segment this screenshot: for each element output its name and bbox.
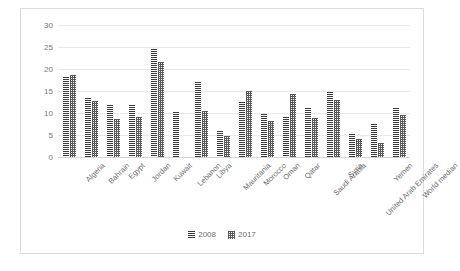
bar-2008 (349, 134, 355, 157)
bar-2017 (400, 115, 406, 157)
bar-group (58, 25, 80, 157)
plot-area: 051015202530 AlgeriaBahrainEgyptJordanKu… (58, 25, 410, 157)
y-tick-label-5: 5 (49, 131, 53, 140)
bar-group (190, 25, 212, 157)
bar-group (234, 25, 256, 157)
bar-2008 (283, 117, 289, 157)
category-label: Yemen (392, 161, 415, 184)
bar-group (124, 25, 146, 157)
bar-2017 (158, 62, 164, 157)
bar-2008 (63, 77, 69, 157)
bar-group (322, 25, 344, 157)
bar-2008 (371, 124, 377, 157)
bar-2017 (114, 119, 120, 157)
y-tick-label-30: 30 (44, 21, 53, 30)
bar-2008 (151, 49, 157, 157)
category-label: Jordan (150, 161, 173, 184)
legend-swatch-2017-icon (228, 231, 235, 239)
bar-2008 (195, 82, 201, 157)
bar-2008 (393, 108, 399, 157)
y-tick-label-20: 20 (44, 65, 53, 74)
gridline-0: 0 (58, 157, 410, 158)
bar-2008 (261, 114, 267, 157)
bar-2017 (378, 143, 384, 157)
bar-group (278, 25, 300, 157)
bar-group (168, 25, 190, 157)
bar-group (366, 25, 388, 157)
bar-2017 (202, 111, 208, 157)
bar-2008 (85, 98, 91, 157)
bar-2017 (136, 117, 142, 157)
bar-2008 (327, 92, 333, 157)
bar-2017 (70, 75, 76, 157)
y-tick-label-0: 0 (49, 153, 53, 162)
bar-2017 (334, 100, 340, 157)
bar-group (146, 25, 168, 157)
bar-group (344, 25, 366, 157)
legend-item-2017: 2017 (228, 230, 256, 239)
chart-legend: 2008 2017 (21, 230, 423, 239)
legend-label-2017: 2017 (238, 230, 256, 239)
bar-2008 (107, 105, 113, 157)
category-label: Kuwait (172, 161, 194, 183)
bar-2017 (312, 118, 318, 157)
bar-group (212, 25, 234, 157)
bar-2017 (268, 121, 274, 157)
bar-2008 (305, 108, 311, 157)
bar-2017 (246, 91, 252, 157)
y-tick-label-25: 25 (44, 43, 53, 52)
bar-group (388, 25, 410, 157)
legend-item-2008: 2008 (188, 230, 216, 239)
bar-2008 (239, 102, 245, 157)
chart-container: 051015202530 AlgeriaBahrainEgyptJordanKu… (20, 8, 424, 254)
bar-2017 (92, 101, 98, 157)
bar-2017 (224, 136, 230, 157)
bar-group (300, 25, 322, 157)
bar-2008 (173, 112, 179, 157)
legend-swatch-2008-icon (188, 231, 195, 239)
bar-group (80, 25, 102, 157)
y-tick-label-15: 15 (44, 87, 53, 96)
bar-2017 (356, 139, 362, 157)
bar-2017 (290, 94, 296, 157)
bar-2008 (217, 131, 223, 157)
category-label: Egypt (127, 161, 147, 181)
category-label: Algeria (84, 161, 107, 184)
legend-label-2008: 2008 (198, 230, 216, 239)
bar-group (102, 25, 124, 157)
bar-group (256, 25, 278, 157)
bar-2008 (129, 105, 135, 157)
y-tick-label-10: 10 (44, 109, 53, 118)
category-label: Qatar (302, 161, 322, 181)
